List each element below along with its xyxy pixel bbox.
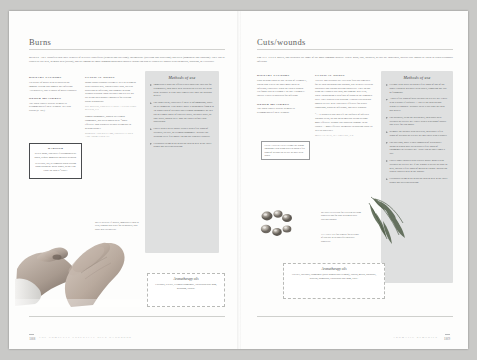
methods-list-left: Immediately hold the affected area under… <box>145 83 219 156</box>
book-spread: Burns BURNS ARE classified into three de… <box>9 11 468 349</box>
tea-tree-branch-illustration <box>365 195 429 247</box>
methods-list-right: Cleanse with water to which a few drops … <box>381 83 453 192</box>
methods-item: For splinters, clean the area gently, th… <box>386 116 448 127</box>
intro-paragraph-right: SMALL CUTS grazes, and scratches are som… <box>257 56 453 64</box>
cuts-grazes-caption-box: CUTS AND GRAZES: Cleanse the wound thoro… <box>261 141 310 160</box>
methods-title-left: Methods of use <box>145 75 219 80</box>
photo-caption-left: MILD BURNS: If injured, immediately soak… <box>95 221 139 231</box>
left-col-2: CLINICAL NOTES Minor burns respond extre… <box>85 75 137 142</box>
methods-item: Cover larger injuries with a sterile gau… <box>386 159 448 174</box>
aromatherapy-oils-box-left: Aromatherapy oils Lavender, tea tree, Ge… <box>147 273 225 307</box>
page-title-cuts-wounds: Cuts/wounds <box>257 37 306 47</box>
footer-left: THE COMPLETE ESSENTIAL OILS HANDBOOK <box>39 336 132 339</box>
methods-item: Cover with a sterile gauze treated with … <box>150 127 214 138</box>
aromatherapy-oils-box-right: Aromatherapy oils Tea tree, lavender, ch… <box>283 263 385 299</box>
page-title-burns: Burns <box>29 37 51 47</box>
methods-of-use-panel-right: Methods of use Cleanse with water to whi… <box>381 71 453 283</box>
methods-item: Apply a few drops of neat lavender or te… <box>386 97 448 112</box>
right-page: Cuts/wounds SMALL CUTS grazes, and scrat… <box>239 11 468 349</box>
methods-item: Cleanse with water to which a few drops … <box>386 83 448 94</box>
warning-text-2: Never boil, stir, or compress when treat… <box>34 162 78 173</box>
tea-tree-caption: TEA TREE is a fine remedy for all kinds … <box>321 233 361 243</box>
aromatherapy-text-left: Lavender, tea tree, German chamomile, eu… <box>152 283 220 291</box>
section-dietary-factors-right: DIETARY FACTORS Slow healing could be du… <box>257 73 307 98</box>
warning-box-left: WARNING Severe burns, especially if acco… <box>29 143 82 179</box>
right-col-1: DIETARY FACTORS Slow healing could be du… <box>257 73 307 119</box>
section-other-measures-left: OTHER MEASURES The Bach Flower Rescue Re… <box>29 96 77 113</box>
footer-right: AROMATIC REMEDIES <box>393 336 438 339</box>
section-clinical-quote-right: “… it dissolved pus and left the surface… <box>315 113 373 137</box>
methods-item: Calendula cream or oil helps the skin to… <box>386 177 448 185</box>
methods-item: Immediately hold the affected area under… <box>150 83 214 98</box>
section-other-measures-right: OTHER MEASURES The Bach Flower Rescue Re… <box>257 102 307 116</box>
methods-item: Calendula cream or oil helps the skin to… <box>150 142 214 150</box>
methods-item: For swelling, apply a cold compress of w… <box>386 141 448 156</box>
methods-item: For larger areas, especially if there is… <box>150 101 214 124</box>
right-col-2: CLINICAL NOTES Tea tree and lavender are… <box>315 73 373 140</box>
intro-text-right: grazes, and scratches are some of the mo… <box>257 56 453 63</box>
intro-paragraph-left: BURNS ARE classified into three degrees … <box>29 56 225 64</box>
intro-lead-left: BURNS ARE <box>29 56 46 59</box>
left-col-1: DIETARY FACTORS Eat plenty of garlic to … <box>29 75 77 117</box>
methods-of-use-panel-left: Methods of use Immediately hold the affe… <box>145 71 219 253</box>
myrrh-caption: MYRRH is excellent for excellent bleedin… <box>321 211 361 221</box>
section-clinical-notes-left: CLINICAL NOTES Minor burns respond extre… <box>85 75 137 112</box>
section-dietary-factors-left: DIETARY FACTORS Eat plenty of garlic to … <box>29 75 77 92</box>
methods-title-right: Methods of use <box>381 75 453 80</box>
folio-right: 189 <box>444 336 450 341</box>
intro-lead-right: SMALL CUTS <box>257 56 276 59</box>
title-rule-left <box>29 49 225 50</box>
aromatherapy-title-right: Aromatherapy oils <box>284 267 384 271</box>
folio-rule-left <box>29 334 34 335</box>
folio-rule-right <box>445 334 450 335</box>
warning-text-1: Severe burns, especially if accompanied … <box>34 152 78 159</box>
tea-tree-leaves <box>365 195 429 247</box>
myrrh-resin-illustration <box>257 207 317 247</box>
section-clinical-notes-right: CLINICAL NOTES Tea tree and lavender are… <box>315 73 373 110</box>
aromatherapy-title-left: Aromatherapy oils <box>148 277 224 281</box>
aromatherapy-text-right: Tea tree, lavender, chamomile (both Roma… <box>288 273 380 281</box>
methods-item: Remove the splinter with tweezers, then … <box>386 130 448 138</box>
footer-rule-left <box>29 316 225 317</box>
warning-title: WARNING <box>34 147 78 150</box>
left-page: Burns BURNS ARE classified into three de… <box>9 11 239 349</box>
intro-text-left: classified into three degrees of severit… <box>29 56 225 63</box>
footer-rule-right <box>257 316 453 317</box>
section-clinical-notes-left-2: Roman chamomile, known in German chamomi… <box>85 115 137 138</box>
folio-left: 188 <box>29 336 35 341</box>
title-rule-right <box>257 49 453 50</box>
myrrh-resin-pieces <box>257 207 317 247</box>
